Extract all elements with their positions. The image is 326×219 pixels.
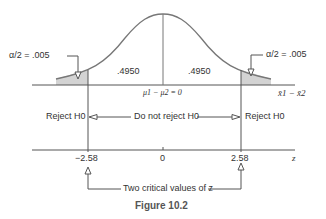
critical-values-note: Two critical values of z (123, 184, 213, 193)
right-area-label: .4950 (188, 67, 211, 76)
right-z-arrow-icon (238, 163, 244, 170)
z-tick-center: 0 (160, 154, 165, 163)
do-not-reject-label: Do not reject H0 (134, 112, 199, 121)
mean-label: μ1 − μ2 = 0 (143, 89, 182, 97)
left-arrow-icon (89, 115, 97, 120)
left-area-label: .4950 (117, 67, 140, 76)
left-tail-pointer (67, 56, 78, 72)
reject-right-label: Reject H0 (245, 112, 285, 121)
right-tail-pointer (251, 55, 263, 69)
left-tail-label: α/2 = .005 (9, 51, 49, 60)
left-z-arrow-icon (85, 167, 91, 174)
figure-caption: Figure 10.2 (135, 200, 188, 211)
x-axis-label: x̄1 − x̄2 (278, 89, 306, 98)
right-arrow-icon (232, 115, 240, 120)
right-tail-label: α/2 = .005 (266, 50, 306, 59)
z-tick-right: 2.58 (231, 154, 249, 163)
z-tick-left: −2.58 (75, 154, 98, 163)
left-z-pointer (88, 174, 121, 189)
z-axis-label: z (292, 154, 296, 163)
reject-left-label: Reject H0 (46, 112, 86, 121)
